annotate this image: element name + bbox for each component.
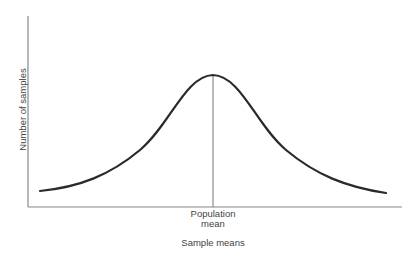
y-axis-label: Number of samples xyxy=(17,60,28,160)
population-mean-label: Population mean xyxy=(173,209,253,229)
population-mean-label-line2: mean xyxy=(173,219,253,229)
x-axis-label: Sample means xyxy=(153,237,273,248)
